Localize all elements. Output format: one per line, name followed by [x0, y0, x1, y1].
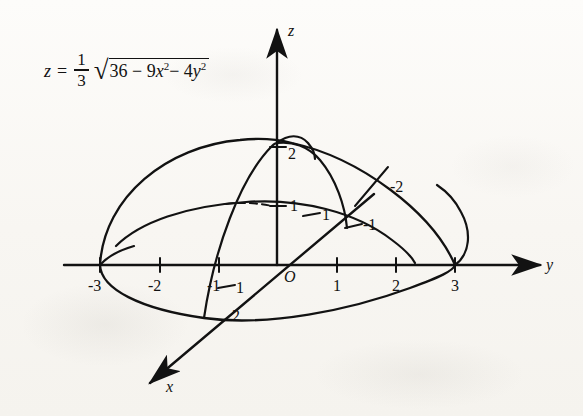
x-tick-label-2: 2 [232, 307, 240, 325]
y-tick-label--2: -2 [148, 277, 161, 295]
x-tick-label-1-lower: 1 [236, 279, 244, 297]
x-tick-label-1: 1 [322, 206, 330, 224]
y-tick-label-1: 1 [333, 277, 341, 295]
figure-canvas: z = 1 3 √ 36 − 9x2− 4y2 [0, 0, 583, 416]
z-axis-label: z [288, 22, 294, 40]
interior-tick--2 [355, 167, 388, 206]
x-axis-tick-marks [218, 213, 320, 288]
x-tick-1 [303, 213, 320, 216]
interior-tick-label--1: -1 [363, 216, 376, 234]
x-axis-label: x [166, 378, 173, 396]
horizontal-trace-z1-hidden [226, 203, 272, 206]
y-tick-label--3: -3 [88, 277, 101, 295]
z-tick-label-2: 2 [288, 145, 296, 163]
origin-label: O [284, 268, 296, 286]
interior-tick-label--2: -2 [390, 178, 403, 196]
right-limb-arc [437, 185, 468, 265]
y-tick-label-3: 3 [451, 277, 459, 295]
z-tick-label-1: 1 [290, 197, 298, 215]
y-axis-label: y [546, 256, 553, 274]
y-tick-label-2: 2 [392, 277, 400, 295]
x-tick-2 [218, 285, 235, 288]
y-tick-label--1: -1 [207, 277, 220, 295]
